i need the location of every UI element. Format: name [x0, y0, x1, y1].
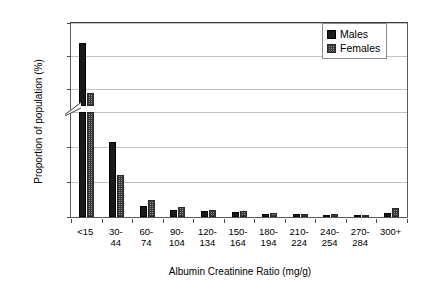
- x-tick-mark: [315, 219, 316, 223]
- x-tick-label: 180- 194: [253, 226, 284, 248]
- x-tick-mark: [71, 219, 72, 223]
- chart-legend: Males Females: [322, 23, 387, 59]
- y-tick-mark: [67, 182, 71, 183]
- x-tick-mark: [346, 219, 347, 223]
- bar: [209, 210, 216, 217]
- bar: [240, 211, 247, 217]
- bar: [79, 112, 86, 217]
- x-tick-mark: [407, 219, 408, 223]
- bar: [87, 112, 94, 217]
- legend-swatch-females-icon: [327, 44, 336, 53]
- y-tick-mark: [67, 217, 71, 218]
- bar: [117, 175, 124, 217]
- x-tick-label: 90- 104: [162, 226, 193, 248]
- legend-swatch-males-icon: [327, 30, 336, 39]
- bar: [170, 210, 177, 217]
- bar: [362, 215, 369, 217]
- x-tick-label: 60- 74: [131, 226, 162, 248]
- bar: [331, 214, 338, 217]
- bar: [262, 214, 269, 218]
- x-tick-mark: [193, 219, 194, 223]
- x-tick-mark: [102, 219, 103, 223]
- bar: [323, 215, 330, 217]
- y-axis-title: Proportion of population (%): [33, 22, 44, 222]
- x-tick-label: 150- 164: [223, 226, 254, 248]
- axis-break-icon: [65, 100, 81, 116]
- legend-label-females: Females: [340, 42, 380, 54]
- legend-label-males: Males: [340, 28, 368, 40]
- chart-figure: Proportion of population (%) Albumin Cre…: [0, 0, 432, 294]
- bar: [140, 206, 147, 217]
- legend-item-males: Males: [327, 27, 380, 41]
- bar: [232, 212, 239, 217]
- x-tick-mark: [376, 219, 377, 223]
- x-tick-label: 240- 254: [314, 226, 345, 248]
- x-tick-label: 30- 44: [101, 226, 132, 248]
- x-tick-mark: [254, 219, 255, 223]
- x-tick-label: 210- 224: [284, 226, 315, 248]
- x-tick-label: 300+: [375, 226, 406, 237]
- bar: [79, 43, 86, 106]
- bar: [384, 213, 391, 217]
- bar: [293, 214, 300, 217]
- x-tick-mark: [132, 219, 133, 223]
- y-tick-mark: [67, 89, 71, 90]
- bar: [392, 208, 399, 217]
- bar: [87, 93, 94, 106]
- bar: [354, 215, 361, 217]
- x-tick-label: 270- 284: [345, 226, 376, 248]
- bar: [301, 214, 308, 218]
- legend-item-females: Females: [327, 41, 380, 55]
- x-tick-mark: [224, 219, 225, 223]
- x-axis-title: Albumin Creatinine Ratio (mg/g): [70, 266, 410, 277]
- bar: [178, 207, 185, 218]
- x-tick-label: <15: [70, 226, 101, 237]
- x-tick-mark: [285, 219, 286, 223]
- bar: [201, 211, 208, 217]
- y-tick-mark: [67, 147, 71, 148]
- bar: [109, 142, 116, 217]
- bar: [270, 213, 277, 217]
- y-tick-mark: [67, 56, 71, 57]
- y-tick-mark: [67, 23, 71, 24]
- x-tick-mark: [163, 219, 164, 223]
- bar: [148, 200, 155, 218]
- x-tick-label: 120- 134: [192, 226, 223, 248]
